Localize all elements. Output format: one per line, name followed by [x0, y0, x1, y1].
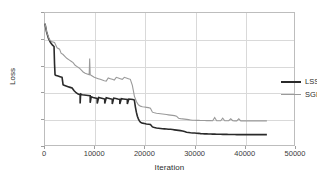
legend-swatch-icon — [281, 81, 301, 83]
legend-label: LSSGD — [305, 78, 317, 86]
series-line-lssgd — [45, 24, 267, 135]
legend-item-sgd: SGD — [281, 88, 317, 101]
legend: LSSGDSGD — [281, 75, 317, 101]
x-tick-label: 20000 — [121, 150, 167, 158]
loss-vs-iteration-chart: 0246810 LSSGDSGD 01000020000300004000050… — [0, 0, 317, 188]
y-axis-title: Loss — [8, 57, 17, 97]
x-tick-label: 0 — [21, 150, 67, 158]
legend-label: SGD — [305, 91, 317, 99]
series-line-sgd — [45, 24, 267, 121]
x-tick-label: 10000 — [71, 150, 117, 158]
series-lines — [45, 13, 296, 147]
x-tick-label: 50000 — [272, 150, 317, 158]
legend-item-lssgd: LSSGD — [281, 75, 317, 88]
x-axis-title: Iteration — [44, 163, 295, 172]
plot-area: LSSGDSGD — [44, 12, 295, 146]
legend-swatch-icon — [281, 94, 301, 95]
x-tick-label: 40000 — [222, 150, 268, 158]
x-tick-label: 30000 — [172, 150, 218, 158]
